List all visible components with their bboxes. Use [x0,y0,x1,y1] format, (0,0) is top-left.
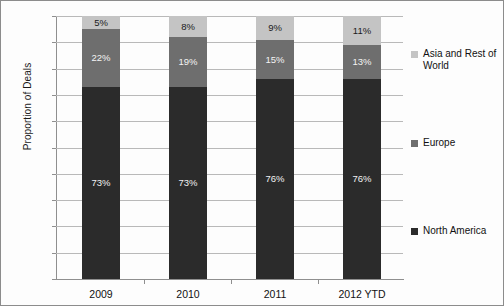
bar-value-label: 73% [91,178,110,188]
bar-segment[interactable]: 73% [82,87,120,279]
bar-segment[interactable]: 8% [169,16,207,37]
y-tick-mark [52,69,56,70]
bar-group[interactable]: 5%22%73% [82,16,120,279]
bar-value-label: 13% [352,57,371,67]
legend-label: Europe [423,137,455,149]
bar-value-label: 5% [94,18,108,28]
y-tick-mark [52,253,56,254]
bar-value-label: 15% [265,55,284,65]
y-tick-mark [52,200,56,201]
bar-group[interactable]: 9%15%76% [256,16,294,279]
y-tick-mark [52,148,56,149]
stacked-bar-chart: Proportion of Deals 0%10%20%30%40%50%60%… [0,0,504,306]
legend-swatch-icon [411,228,418,235]
x-category-label: 2009 [56,288,146,300]
bar-group[interactable]: 11%13%76% [343,16,381,279]
legend-label: Asia and Rest of World [423,48,504,72]
bar-segment[interactable]: 19% [169,37,207,87]
bar-value-label: 8% [181,22,195,32]
x-tick-mark [144,279,145,284]
bar-value-label: 76% [265,174,284,184]
bar-segment[interactable]: 9% [256,16,294,40]
y-tick-mark [52,42,56,43]
bar-segment[interactable]: 11% [343,16,381,45]
bar-value-label: 11% [353,26,371,36]
bar-value-label: 76% [352,174,371,184]
x-tick-mark [318,279,319,284]
legend-item[interactable]: Asia and Rest of World [411,48,504,72]
bar-segment[interactable]: 76% [343,79,381,279]
bar-value-label: 22% [91,53,110,63]
bar-segment[interactable]: 5% [82,16,120,29]
bar-segment[interactable]: 15% [256,40,294,79]
bar-segment[interactable]: 22% [82,29,120,87]
x-category-label: 2011 [230,288,320,300]
legend-item[interactable]: North America [411,225,486,237]
x-category-label: 2010 [143,288,233,300]
bar-value-label: 9% [268,23,282,33]
legend-label: North America [423,225,486,237]
y-tick-mark [52,121,56,122]
x-axis-line [56,279,404,280]
legend-item[interactable]: Europe [411,137,455,149]
bar-segment[interactable]: 76% [256,79,294,279]
y-tick-mark [52,226,56,227]
y-tick-mark [52,174,56,175]
y-tick-mark [52,16,56,17]
legend: Asia and Rest of WorldEuropeNorth Americ… [411,1,504,306]
y-axis-title: Proportion of Deals [22,37,33,177]
plot-area: 0%10%20%30%40%50%60%70%80%90%100% 5%22%7… [56,16,403,279]
bar-value-label: 73% [178,178,197,188]
bar-segment[interactable]: 13% [343,45,381,79]
x-category-label: 2012 YTD [317,288,407,300]
y-tick-mark [52,95,56,96]
legend-swatch-icon [411,140,418,147]
bar-value-label: 19% [178,57,197,67]
y-tick-mark [52,279,56,280]
bar-segment[interactable]: 73% [169,87,207,279]
legend-swatch-icon [411,51,418,58]
bar-group[interactable]: 8%19%73% [169,16,207,279]
x-tick-mark [231,279,232,284]
